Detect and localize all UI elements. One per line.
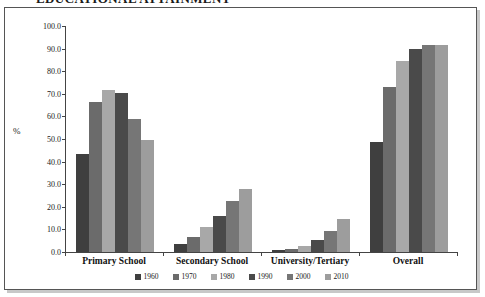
plot-area: [65, 26, 458, 253]
x-axis-label-overall: Overall: [359, 256, 457, 266]
bar-2000-secondary-school: [226, 201, 239, 252]
legend-swatch-icon: [287, 274, 293, 280]
bar-1970-secondary-school: [187, 237, 200, 252]
bar-1990-university-tertiary: [311, 240, 324, 252]
y-axis-tick-mark: [62, 229, 66, 230]
legend-swatch-icon: [211, 274, 217, 280]
bar-1980-overall: [396, 61, 409, 252]
y-axis-tick-mark: [62, 207, 66, 208]
legend-swatch-icon: [173, 274, 179, 280]
y-axis-tick-mark: [62, 26, 66, 27]
bar-2010-university-tertiary: [337, 219, 350, 252]
legend-item-2010[interactable]: 2010: [325, 272, 349, 281]
legend-label: 1990: [258, 272, 273, 281]
y-axis-tick-mark: [62, 71, 66, 72]
y-axis-tick-mark: [62, 139, 66, 140]
y-axis-tick-label: 100.0: [43, 22, 61, 31]
legend-item-1990[interactable]: 1990: [249, 272, 273, 281]
bar-1990-primary-school: [115, 93, 128, 252]
y-axis-tick-mark: [62, 94, 66, 95]
bar-group: [370, 26, 448, 252]
page-title-clipped-region: EDUCATIONAL ATTAINMENT: [0, 0, 485, 6]
y-axis-tick-label: 20.0: [47, 202, 61, 211]
y-axis-tick-mark: [62, 162, 66, 163]
bar-2000-overall: [422, 45, 435, 252]
bar-2000-primary-school: [128, 119, 141, 252]
y-axis-tick-label: 90.0: [47, 44, 61, 53]
chart-plot-wrapper: % 100.090.080.070.060.050.040.030.020.01…: [5, 8, 478, 291]
y-axis-tick-label: 10.0: [47, 225, 61, 234]
y-axis-tick-label: 70.0: [47, 89, 61, 98]
bar-group: [76, 26, 154, 252]
bar-1980-secondary-school: [200, 227, 213, 252]
page-title: EDUCATIONAL ATTAINMENT: [36, 0, 231, 6]
x-axis-label-secondary-school: Secondary School: [163, 256, 261, 266]
legend-swatch-icon: [135, 274, 141, 280]
chart-legend: 196019701980199020002010: [5, 272, 478, 281]
x-axis-tick-mark: [457, 252, 458, 256]
bar-1980-primary-school: [102, 90, 115, 252]
legend-label: 1980: [220, 272, 235, 281]
y-axis-tick-mark: [62, 49, 66, 50]
y-axis-tick-label: 50.0: [47, 135, 61, 144]
legend-label: 2000: [296, 272, 311, 281]
y-axis-tick-labels: 100.090.080.070.060.050.040.030.020.010.…: [23, 26, 61, 252]
bar-1970-overall: [383, 87, 396, 252]
legend-item-2000[interactable]: 2000: [287, 272, 311, 281]
legend-item-1970[interactable]: 1970: [173, 272, 197, 281]
legend-swatch-icon: [325, 274, 331, 280]
y-axis-tick-mark: [62, 184, 66, 185]
bar-2000-university-tertiary: [324, 231, 337, 252]
bar-group: [174, 26, 252, 252]
bar-group: [272, 26, 350, 252]
x-axis-category-labels: Primary SchoolSecondary SchoolUniversity…: [65, 256, 457, 266]
bar-2010-secondary-school: [239, 189, 252, 252]
y-axis-tick-label: 30.0: [47, 180, 61, 189]
legend-swatch-icon: [249, 274, 255, 280]
y-axis-title: %: [13, 126, 21, 136]
bar-groups: [66, 26, 458, 252]
bar-1990-secondary-school: [213, 216, 226, 252]
chart-figure-frame: % 100.090.080.070.060.050.040.030.020.01…: [4, 7, 477, 290]
legend-item-1980[interactable]: 1980: [211, 272, 235, 281]
y-axis-tick-label: 40.0: [47, 157, 61, 166]
y-axis-tick-label: 0.0: [51, 248, 61, 257]
legend-label: 1960: [144, 272, 159, 281]
y-axis-tick-label: 60.0: [47, 112, 61, 121]
x-axis-label-primary-school: Primary School: [65, 256, 163, 266]
bar-1960-primary-school: [76, 154, 89, 252]
bar-2010-primary-school: [141, 140, 154, 252]
legend-label: 2010: [334, 272, 349, 281]
y-axis-tick-label: 80.0: [47, 67, 61, 76]
x-axis-label-university-tertiary: University/Tertiary: [261, 256, 359, 266]
bar-1970-primary-school: [89, 102, 102, 252]
bar-2010-overall: [435, 45, 448, 252]
bar-1960-secondary-school: [174, 244, 187, 252]
y-axis-tick-mark: [62, 116, 66, 117]
bar-1960-overall: [370, 142, 383, 252]
bar-1990-overall: [409, 49, 422, 252]
legend-label: 1970: [182, 272, 197, 281]
legend-item-1960[interactable]: 1960: [135, 272, 159, 281]
